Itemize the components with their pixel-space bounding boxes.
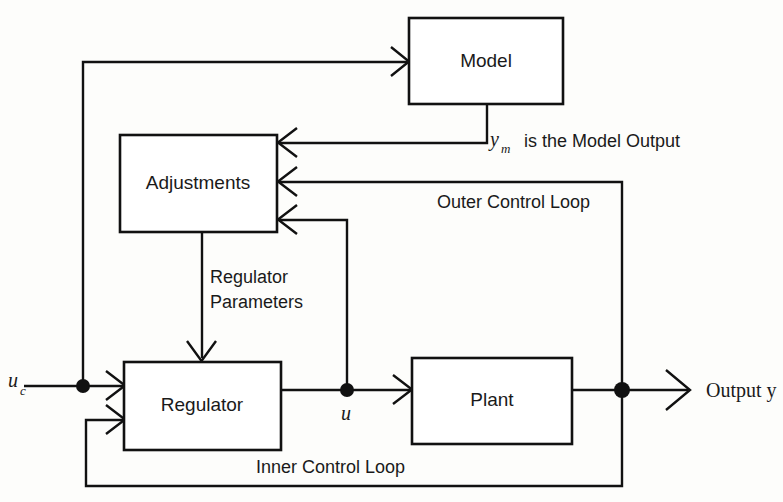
control-block-diagram: Model Adjustments Regulator Plant u c u … [0, 0, 783, 502]
label-control-signal: u [341, 402, 351, 424]
block-plant-label: Plant [470, 389, 514, 410]
block-regulator-label: Regulator [161, 394, 244, 415]
label-inner-control-loop: Inner Control Loop [256, 457, 405, 477]
label-outer-control-loop: Outer Control Loop [437, 192, 590, 212]
label-model-output-note: is the Model Output [524, 131, 680, 151]
label-regulator-parameters-line1: Regulator [210, 267, 288, 287]
diagram-canvas: Model Adjustments Regulator Plant u c u … [0, 0, 783, 502]
junction-output [614, 382, 630, 398]
label-model-output-subscript: m [501, 141, 510, 156]
block-model-label: Model [460, 50, 512, 71]
label-regulator-parameters-line2: Parameters [210, 292, 303, 312]
wire-model-output-to-adjustments [279, 104, 487, 143]
block-adjustments-label: Adjustments [146, 172, 251, 193]
junction-uc [76, 379, 90, 393]
label-command-input-subscript: c [20, 383, 26, 398]
label-plant-output: Output y [706, 379, 777, 402]
label-command-input: u [8, 369, 18, 391]
label-model-output: y [488, 128, 499, 151]
junction-u [340, 383, 354, 397]
